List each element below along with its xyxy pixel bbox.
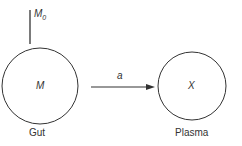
plasma-symbol: X	[188, 80, 195, 91]
plasma-label: Plasma	[175, 127, 208, 138]
gut-symbol: M	[36, 80, 44, 91]
rate-label: a	[117, 70, 123, 81]
arrowhead-icon	[146, 84, 155, 90]
input-label: M0	[34, 8, 46, 21]
gut-label: Gut	[29, 127, 45, 138]
